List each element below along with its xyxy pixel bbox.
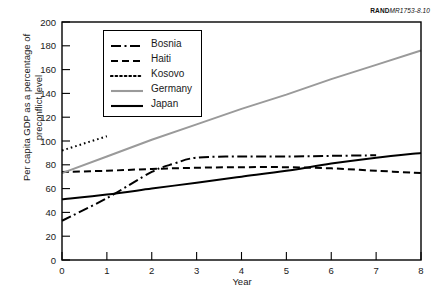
y-tick-label: 180 [40, 40, 56, 51]
legend-swatch-kosovo-icon [110, 68, 144, 80]
y-tick-label: 20 [45, 231, 56, 242]
chart-legend: BosniaHaitiKosovoGermanyJapan [103, 30, 202, 117]
legend-swatch-japan-icon [110, 98, 144, 110]
x-tick-label: 8 [418, 265, 423, 276]
x-axis-tick-labels: 012345678 [59, 265, 423, 276]
x-tick-label: 0 [59, 265, 64, 276]
y-tick-label: 100 [40, 136, 56, 147]
legend-item-kosovo[interactable]: Kosovo [110, 66, 192, 81]
legend-label-germany: Germany [151, 83, 192, 95]
figure: RANDMR1753-8.10 Per capita GDP as a perc… [0, 0, 436, 297]
y-tick-label: 60 [45, 183, 56, 194]
legend-item-japan[interactable]: Japan [110, 96, 192, 111]
y-tick-label: 80 [45, 159, 56, 170]
x-tick-label: 2 [149, 265, 154, 276]
legend-swatch-bosnia-icon [110, 38, 144, 50]
y-tick-label: 120 [40, 112, 56, 123]
legend-item-germany[interactable]: Germany [110, 81, 192, 96]
series-line-kosovo [62, 136, 107, 150]
legend-label-haiti: Haiti [151, 53, 171, 65]
y-tick-label: 140 [40, 88, 56, 99]
x-tick-label: 4 [239, 265, 244, 276]
legend-item-bosnia[interactable]: Bosnia [110, 36, 192, 51]
x-tick-label: 1 [104, 265, 109, 276]
legend-swatch-haiti-icon [110, 53, 144, 65]
legend-swatch-germany-icon [110, 83, 144, 95]
series-line-haiti [62, 167, 421, 173]
y-tick-label: 160 [40, 64, 56, 75]
x-tick-label: 5 [284, 265, 289, 276]
series-line-bosnia [62, 155, 376, 220]
y-axis-tick-labels: 020406080100120140160180200 [40, 17, 56, 266]
line-chart-plot: 020406080100120140160180200 012345678 [0, 0, 436, 297]
x-tick-label: 3 [194, 265, 199, 276]
legend-label-kosovo: Kosovo [151, 68, 184, 80]
y-tick-label: 40 [45, 207, 56, 218]
legend-label-bosnia: Bosnia [151, 38, 182, 50]
x-tick-label: 7 [373, 265, 378, 276]
legend-label-japan: Japan [151, 98, 178, 110]
y-tick-label: 200 [40, 17, 56, 28]
y-tick-label: 0 [51, 255, 56, 266]
legend-item-haiti[interactable]: Haiti [110, 51, 192, 66]
x-tick-label: 6 [329, 265, 334, 276]
